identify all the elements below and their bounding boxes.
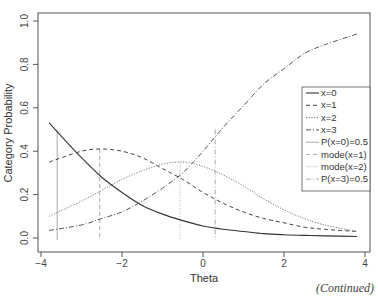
continued-note: (Continued)	[316, 281, 374, 296]
legend-label: P(x=0)=0.5	[321, 136, 368, 147]
legend-label: x=3	[321, 124, 337, 135]
legend-label: mode(x=2)	[321, 161, 367, 172]
y-tick-label: 0.4	[19, 144, 30, 158]
x-tick-label: 4	[362, 258, 368, 269]
legend-label: mode(x=1)	[321, 149, 367, 160]
legend: x=0x=1x=2x=3P(x=0)=0.5mode(x=1)mode(x=2)…	[302, 87, 370, 191]
y-axis-label: Category Probability	[2, 83, 14, 183]
y-tick-label: 0.0	[19, 231, 30, 245]
y-tick-label: 0.2	[19, 187, 30, 201]
legend-label: x=0	[321, 87, 337, 98]
x-tick-label: −4	[35, 258, 47, 269]
x-tick-label: 2	[281, 258, 287, 269]
category-probability-chart: 0.00.20.40.60.81.0 −4−2024 Theta Categor…	[0, 0, 378, 298]
y-tick-label: 1.0	[19, 14, 30, 28]
y-tick-label: 0.8	[19, 57, 30, 71]
legend-label: P(x=3)=0.5	[321, 173, 368, 184]
legend-label: x=1	[321, 99, 337, 110]
x-tick-label: 0	[200, 258, 206, 269]
x-axis: −4−2024	[35, 252, 368, 269]
legend-label: x=2	[321, 112, 337, 123]
y-tick-label: 0.6	[19, 100, 30, 114]
x-axis-label: Theta	[190, 272, 219, 284]
x-tick-label: −2	[116, 258, 128, 269]
y-axis: 0.00.20.40.60.81.0	[19, 14, 38, 245]
